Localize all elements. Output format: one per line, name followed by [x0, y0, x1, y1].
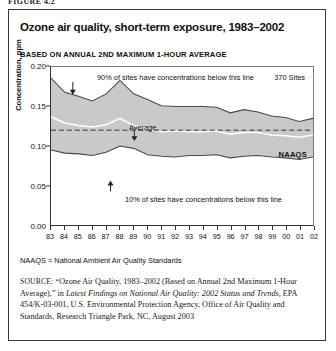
x-tick-label: 95 — [213, 232, 221, 241]
x-tick-mark — [133, 226, 134, 230]
x-tick-label: 86 — [88, 232, 96, 241]
percentile-band — [51, 78, 313, 159]
x-tick-label: 88 — [115, 232, 123, 241]
y-tick-label: 0.00 — [30, 222, 46, 231]
x-tick-label: 00 — [282, 232, 290, 241]
x-tick-mark — [189, 226, 190, 230]
x-tick-label: 93 — [185, 232, 193, 241]
x-tick-label: 91 — [157, 232, 165, 241]
plot-area: 90% of sites have concentrations below t… — [50, 66, 314, 226]
x-axis-ticks: 8384858687888990919293949596979899000102 — [50, 226, 314, 246]
x-tick-mark — [175, 226, 176, 230]
x-tick-mark — [286, 226, 287, 230]
x-tick-label: 90 — [143, 232, 151, 241]
naaqs-note: NAAQS = National Ambient Air Quality Sta… — [20, 256, 182, 265]
x-tick-mark — [119, 226, 120, 230]
x-tick-mark — [203, 226, 204, 230]
x-tick-mark — [314, 226, 315, 230]
source-italic-title: Latest Findings on National Air Quality:… — [66, 289, 281, 298]
y-tick-label: 0.15 — [30, 102, 46, 111]
x-tick-mark — [50, 226, 51, 230]
x-tick-label: 99 — [268, 232, 276, 241]
x-tick-mark — [78, 226, 79, 230]
chart-subtitle: BASED ON ANNUAL 2ND MAXIMUM 1-HOUR AVERA… — [20, 50, 227, 59]
x-tick-mark — [106, 226, 107, 230]
x-tick-mark — [217, 226, 218, 230]
x-tick-mark — [161, 226, 162, 230]
x-tick-label: 92 — [171, 232, 179, 241]
x-tick-label: 98 — [254, 232, 262, 241]
x-tick-mark — [92, 226, 93, 230]
figure-box: Ozone air quality, short-term exposure, … — [8, 9, 326, 341]
annotation-average: Average — [129, 123, 156, 132]
annotation-site-count: 370 Sites — [274, 73, 305, 82]
source-prefix: SOURCE: — [20, 277, 53, 286]
annotation-p10: 10% of sites have concentrations below t… — [125, 195, 282, 204]
x-tick-label: 87 — [102, 232, 110, 241]
x-tick-label: 89 — [129, 232, 137, 241]
figure-label: FIGURE 4.2 — [8, 0, 55, 6]
annotation-naaqs: NAAQS — [279, 150, 307, 159]
x-tick-mark — [64, 226, 65, 230]
y-tick-label: 0.05 — [30, 182, 46, 191]
x-tick-mark — [258, 226, 259, 230]
annotation-p90: 90% of sites have concentrations below t… — [97, 73, 254, 82]
x-tick-label: 94 — [199, 232, 207, 241]
chart: Concentration, ppm 0.000.050.100.150.20 … — [20, 66, 316, 248]
x-tick-label: 96 — [227, 232, 235, 241]
x-tick-mark — [300, 226, 301, 230]
y-axis-ticks: 0.000.050.100.150.20 — [20, 66, 46, 226]
x-tick-label: 97 — [241, 232, 249, 241]
x-tick-label: 84 — [60, 232, 68, 241]
source-note: SOURCE: “Ozone Air Quality, 1983–2002 (B… — [20, 276, 316, 323]
x-tick-label: 01 — [296, 232, 304, 241]
x-tick-mark — [272, 226, 273, 230]
page-title: Ozone air quality, short-term exposure, … — [20, 21, 284, 33]
x-tick-mark — [231, 226, 232, 230]
x-tick-mark — [147, 226, 148, 230]
y-tick-label: 0.20 — [30, 62, 46, 71]
x-tick-label: 83 — [46, 232, 54, 241]
x-tick-label: 02 — [310, 232, 318, 241]
x-tick-mark — [245, 226, 246, 230]
x-tick-label: 85 — [74, 232, 82, 241]
y-tick-label: 0.10 — [30, 142, 46, 151]
